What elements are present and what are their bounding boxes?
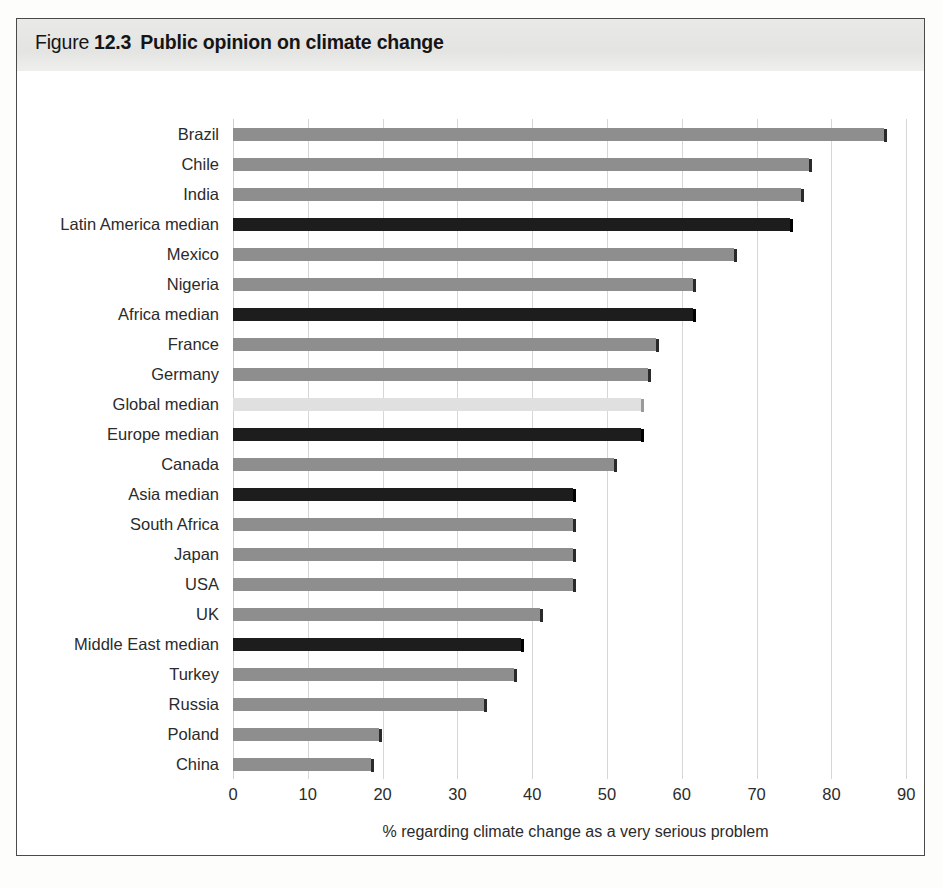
x-axis-caption: % regarding climate change as a very ser… xyxy=(17,823,926,841)
bar-chart: BrazilChileIndiaLatin America medianMexi… xyxy=(17,71,926,857)
x-tick-label: 60 xyxy=(673,785,691,804)
page-title: Figure12.3Public opinion on climate chan… xyxy=(35,31,444,54)
plot-area: BrazilChileIndiaLatin America medianMexi… xyxy=(17,71,924,855)
x-tick-label: 40 xyxy=(523,785,541,804)
figure-title: Public opinion on climate change xyxy=(140,31,443,53)
x-tick-label: 10 xyxy=(299,785,317,804)
x-tick-label: 70 xyxy=(747,785,765,804)
figure-label-word: Figure xyxy=(35,31,89,53)
x-axis-ticks: 0102030405060708090 xyxy=(17,71,926,857)
x-tick-label: 0 xyxy=(228,785,237,804)
x-tick-label: 30 xyxy=(448,785,466,804)
figure-frame: Figure12.3Public opinion on climate chan… xyxy=(16,18,925,856)
x-axis-label: % regarding climate change as a very ser… xyxy=(383,823,769,840)
x-tick-label: 90 xyxy=(897,785,915,804)
x-tick-label: 20 xyxy=(373,785,391,804)
figure-number: 12.3 xyxy=(94,31,131,53)
x-tick-label: 80 xyxy=(822,785,840,804)
x-tick-label: 50 xyxy=(598,785,616,804)
figure-title-band: Figure12.3Public opinion on climate chan… xyxy=(17,19,924,72)
